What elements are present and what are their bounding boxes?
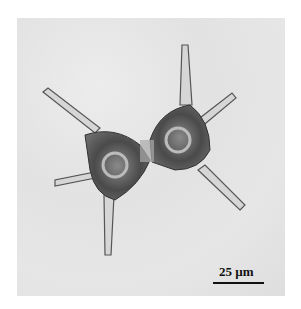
specimen-image xyxy=(0,0,301,309)
scale-bar-label: 25 µm xyxy=(219,264,254,280)
scale-bar xyxy=(213,282,264,284)
